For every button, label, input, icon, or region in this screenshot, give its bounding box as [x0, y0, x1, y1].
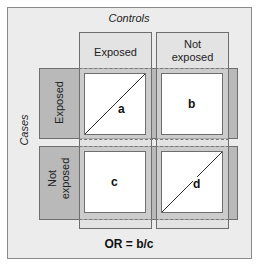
- row-label-exposed: Exposed: [53, 78, 66, 128]
- cell-label-b: b: [188, 97, 195, 111]
- cell-d: d: [161, 151, 223, 213]
- column-label-not: Not: [157, 38, 228, 51]
- diagonal-line: [162, 152, 222, 212]
- column-label-exposed: Exposed: [80, 46, 151, 59]
- cell-a: a: [84, 73, 146, 135]
- diagonal-line: [85, 74, 145, 134]
- dashed-line: [79, 68, 229, 69]
- dashed-line: [79, 139, 229, 140]
- cell-label-c: c: [111, 175, 118, 189]
- cell-label-d: d: [193, 177, 200, 191]
- controls-title: Controls: [0, 12, 258, 24]
- dashed-line: [79, 219, 229, 220]
- cell-label-a: a: [118, 102, 125, 116]
- dashed-line: [79, 146, 229, 147]
- row-label-exposed-2: exposed: [59, 154, 72, 204]
- row-label-not: Not: [46, 154, 59, 204]
- odds-ratio-formula: OR = b/c: [0, 237, 258, 251]
- cell-b: b: [161, 73, 223, 135]
- cell-c: c: [84, 151, 146, 213]
- column-label-exposed-2: exposed: [157, 51, 228, 64]
- cases-title: Cases: [18, 110, 30, 150]
